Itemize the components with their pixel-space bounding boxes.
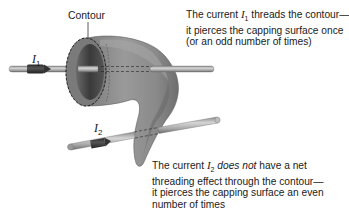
caption-i2-line3: it pierces the capping surface an even (152, 187, 324, 199)
current-i2-label: I2 (94, 121, 102, 137)
contour-label: Contour (68, 10, 105, 22)
caption-i1-line1: The current I1 threads the contour— (186, 9, 349, 25)
caption-current-i2: The current I2 does not have a net threa… (152, 160, 324, 211)
caption-i1-line2: it pierces the capping surface once (186, 25, 349, 37)
caption-current-i1: The current I1 threads the contour— it p… (186, 9, 349, 48)
caption-i2-line1: The current I2 does not have a net (152, 160, 324, 176)
current-i1-label: I1 (32, 52, 40, 68)
caption-i2-line2: threading effect through the contour— (152, 176, 324, 188)
caption-i2-line4: number of times (152, 199, 324, 211)
caption-i1-line3: (or an odd number of times) (186, 36, 349, 48)
